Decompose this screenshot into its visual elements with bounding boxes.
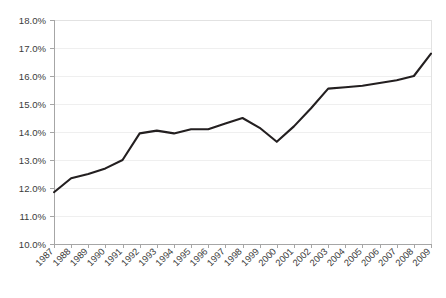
y-tick-label: 11.0% xyxy=(20,211,47,222)
y-tick-label: 15.0% xyxy=(19,99,47,110)
x-tick-label: 2005 xyxy=(342,246,364,268)
x-tick-label: 2001 xyxy=(274,246,296,268)
x-tick-label: 1997 xyxy=(205,246,227,268)
x-tick-label: 1991 xyxy=(102,246,124,268)
x-tick-label: 1996 xyxy=(188,246,210,268)
data-series-line xyxy=(54,54,431,193)
x-tick-label: 1998 xyxy=(222,246,244,268)
chart-canvas: 10.0%11.0%12.0%13.0%14.0%15.0%16.0%17.0%… xyxy=(0,0,446,298)
x-tick-label: 2003 xyxy=(308,246,330,268)
y-tick-label: 16.0% xyxy=(19,71,47,82)
y-tick-label: 14.0% xyxy=(19,127,47,138)
x-tick-label: 2004 xyxy=(325,246,347,268)
x-tick-label: 2002 xyxy=(291,246,313,268)
x-tick-label: 1987 xyxy=(34,246,56,268)
y-tick-label: 18.0% xyxy=(19,15,47,26)
y-tick-label: 13.0% xyxy=(19,155,47,166)
x-axis-tick-labels: 1987198819891990199119921993199419951996… xyxy=(34,246,433,268)
x-tick-label: 1992 xyxy=(119,246,141,268)
line-chart-figure: 10.0%11.0%12.0%13.0%14.0%15.0%16.0%17.0%… xyxy=(0,0,446,298)
x-tick-label: 2008 xyxy=(394,246,416,268)
x-tick-label: 1994 xyxy=(154,246,176,268)
x-tick-label: 2009 xyxy=(411,246,433,268)
x-tick-label: 1988 xyxy=(51,246,73,268)
x-tick-label: 1995 xyxy=(171,246,193,268)
x-tick-label: 2007 xyxy=(376,246,398,268)
x-tick-label: 1999 xyxy=(239,246,261,268)
y-axis xyxy=(50,20,55,245)
y-tick-label: 12.0% xyxy=(19,183,47,194)
y-axis-tick-labels: 10.0%11.0%12.0%13.0%14.0%15.0%16.0%17.0%… xyxy=(19,15,47,250)
x-tick-label: 1989 xyxy=(68,246,90,268)
y-tick-label: 17.0% xyxy=(19,43,47,54)
x-tick-label: 2006 xyxy=(359,246,381,268)
x-tick-label: 1990 xyxy=(85,246,107,268)
x-tick-label: 2000 xyxy=(256,246,278,268)
x-tick-label: 1993 xyxy=(137,246,159,268)
y-tick-label: 10.0% xyxy=(19,239,47,250)
series-line-1 xyxy=(54,54,431,193)
